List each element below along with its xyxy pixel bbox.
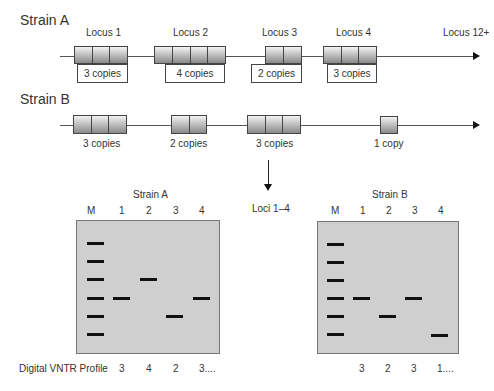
marker-band bbox=[87, 278, 104, 281]
marker-band bbox=[87, 297, 104, 300]
marker-band bbox=[327, 297, 344, 300]
strain-a-locus-1-repeats bbox=[74, 46, 128, 64]
strain-a-locus-2-repeats bbox=[154, 46, 226, 64]
gel-b-lane-2: 2 bbox=[386, 205, 392, 216]
marker-band bbox=[327, 261, 344, 264]
lane-3-band bbox=[166, 315, 183, 318]
gel-a-lane-m: M bbox=[87, 205, 95, 216]
gel-a-profile-3: 2 bbox=[173, 363, 179, 374]
gel-a bbox=[76, 220, 220, 354]
gel-b-title: Strain B bbox=[372, 189, 408, 200]
marker-band bbox=[87, 242, 104, 245]
strain-b-locus-1-repeats bbox=[73, 115, 127, 134]
strain-a-locus-4-copies: 3 copies bbox=[327, 64, 377, 83]
gel-b-profile-2: 2 bbox=[385, 363, 391, 374]
gel-a-profile-4: 3.... bbox=[199, 363, 216, 374]
lane-1-band bbox=[353, 297, 370, 300]
gel-a-profile-2: 4 bbox=[146, 363, 152, 374]
locus-4-label: Locus 4 bbox=[336, 27, 371, 38]
marker-band bbox=[327, 333, 344, 336]
gel-a-lane-2: 2 bbox=[146, 205, 152, 216]
loci-label: Loci 1–4 bbox=[252, 203, 290, 214]
marker-band bbox=[327, 315, 344, 318]
lane-2-band bbox=[379, 315, 396, 318]
marker-band bbox=[87, 315, 104, 318]
gel-b-lane-4: 4 bbox=[438, 205, 444, 216]
strain-b-locus-4-repeats bbox=[380, 116, 398, 134]
strain-b-locus-1-copies: 3 copies bbox=[83, 138, 120, 149]
marker-band bbox=[87, 333, 104, 336]
gel-a-title: Strain A bbox=[133, 189, 168, 200]
gel-b-profile-1: 3 bbox=[359, 363, 365, 374]
strain-b-locus-4-copies: 1 copy bbox=[374, 138, 403, 149]
lane-2-band bbox=[140, 278, 157, 281]
arrow-right-icon bbox=[473, 121, 480, 129]
gel-a-profile-1: 3 bbox=[119, 363, 125, 374]
strain-a-locus-3-copies: 2 copies bbox=[251, 64, 302, 83]
gel-b bbox=[317, 221, 459, 354]
strain-a-locus-4-repeats bbox=[323, 46, 377, 64]
strain-b-locus-2-repeats bbox=[171, 115, 207, 134]
gel-a-lane-1: 1 bbox=[119, 205, 125, 216]
marker-band bbox=[327, 279, 344, 282]
strain-b-title: Strain B bbox=[20, 91, 70, 107]
strain-b-locus-3-repeats bbox=[247, 115, 301, 134]
gel-b-profile-3: 3 bbox=[411, 363, 417, 374]
down-arrow-shaft bbox=[268, 160, 269, 185]
marker-band bbox=[87, 260, 104, 263]
gel-b-profile-4: 1.... bbox=[437, 363, 454, 374]
lane-3-band bbox=[405, 297, 422, 300]
strain-b-locus-3-copies: 3 copies bbox=[256, 138, 293, 149]
lane-4-band bbox=[193, 297, 210, 300]
gel-a-lane-4: 4 bbox=[199, 205, 205, 216]
arrow-down-icon bbox=[264, 184, 272, 191]
strain-b-locus-2-copies: 2 copies bbox=[170, 138, 207, 149]
profile-label: Digital VNTR Profile bbox=[19, 363, 108, 374]
strain-a-locus-3-repeats bbox=[265, 46, 302, 64]
locus-2-label: Locus 2 bbox=[173, 27, 208, 38]
locus-12-label: Locus 12+ bbox=[443, 27, 489, 38]
strain-a-locus-2-copies: 4 copies bbox=[165, 64, 225, 83]
lane-4-band bbox=[431, 334, 448, 337]
locus-1-label: Locus 1 bbox=[86, 27, 121, 38]
gel-b-lane-1: 1 bbox=[360, 205, 366, 216]
strain-a-locus-1-copies: 3 copies bbox=[77, 64, 128, 83]
marker-band bbox=[327, 243, 344, 246]
gel-b-lane-m: M bbox=[331, 205, 339, 216]
locus-3-label: Locus 3 bbox=[262, 27, 297, 38]
arrow-right-icon bbox=[473, 52, 480, 60]
gel-a-lane-3: 3 bbox=[173, 205, 179, 216]
lane-1-band bbox=[113, 297, 130, 300]
gel-b-lane-3: 3 bbox=[412, 205, 418, 216]
strain-a-title: Strain A bbox=[20, 12, 69, 28]
